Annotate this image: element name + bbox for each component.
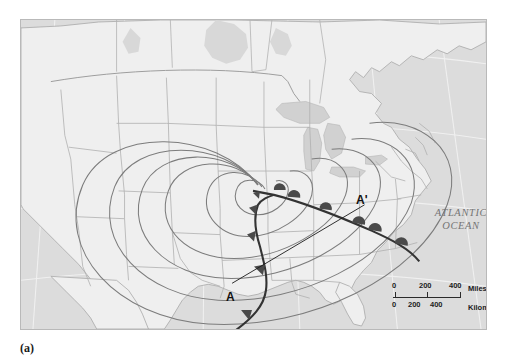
- scale-miles-tick-0: 0: [392, 280, 396, 291]
- scale-miles-numbers: 0 200 400: [392, 280, 466, 291]
- figure-caption: (a): [20, 341, 34, 356]
- figure-root: ATLANTIC OCEAN A A' 0 200 400 Miles: [0, 0, 505, 363]
- scale-bars: 0 200 400 Miles 0 200 400 Kilometers: [392, 280, 487, 310]
- scale-ruler-tick-mid: [427, 292, 428, 298]
- scale-miles-tick-2: 400: [449, 280, 462, 291]
- scale-km-tick-2: 400: [430, 299, 443, 310]
- scale-km-tick-0: 0: [392, 299, 396, 310]
- scale-ruler-bar: [393, 292, 461, 298]
- scale-km-tick-1: 200: [408, 299, 421, 310]
- map-frame: ATLANTIC OCEAN A A' 0 200 400 Miles: [20, 19, 487, 330]
- scale-miles-unit: Miles: [468, 283, 487, 294]
- scale-km-unit: Kilometers: [468, 302, 487, 313]
- scale-miles-tick-1: 200: [419, 280, 432, 291]
- scale-ruler-tick-right: [460, 292, 461, 298]
- scale-ruler-tick-left: [395, 292, 396, 298]
- scale-km-numbers: 0 200 400: [392, 299, 466, 310]
- scale-row-kilometers: 0 200 400 Kilometers: [392, 299, 487, 310]
- scale-row-miles: 0 200 400 Miles: [392, 280, 487, 291]
